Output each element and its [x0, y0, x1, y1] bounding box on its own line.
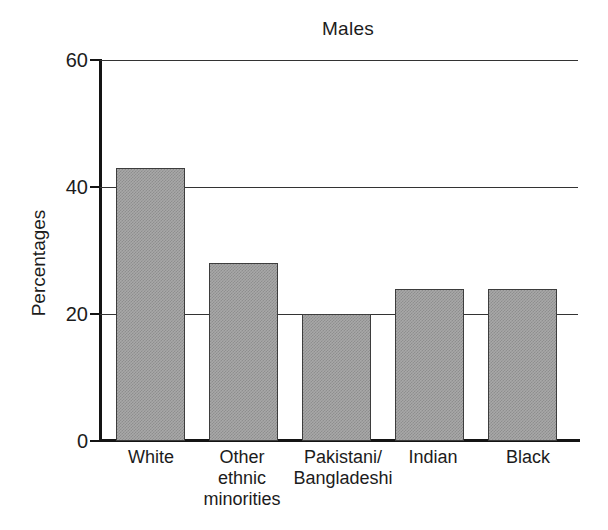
x-label-pakistani-bangladeshi: Pakistani/ Bangladeshi	[283, 447, 403, 489]
y-tick-label-0: 0	[28, 431, 88, 451]
y-tick-label-20: 20	[28, 304, 88, 324]
bar-pakistani-bangladeshi[interactable]	[302, 314, 371, 441]
gridline-60	[100, 60, 578, 61]
bar-indian[interactable]	[395, 289, 464, 441]
x-label-black: Black	[487, 447, 569, 468]
y-tick-label-40: 40	[28, 177, 88, 197]
chart-title: Males	[0, 18, 608, 40]
plot-area	[100, 60, 578, 441]
bar-chart: Males Percentages 60 40 20 0 White Other…	[0, 0, 608, 530]
y-tick-label-60: 60	[28, 50, 88, 70]
x-label-other-ethnic-minorities: Other ethnic minorities	[197, 447, 287, 510]
x-label-white: White	[110, 447, 192, 468]
bar-white[interactable]	[116, 168, 185, 441]
chart-title-text: Males	[322, 18, 374, 40]
bar-black[interactable]	[488, 289, 557, 441]
bar-other-ethnic-minorities[interactable]	[209, 263, 278, 441]
x-label-indian: Indian	[392, 447, 474, 468]
